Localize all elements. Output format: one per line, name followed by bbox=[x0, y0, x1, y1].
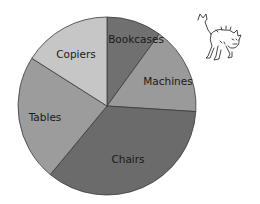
slice-label-bookcases: Bookcases bbox=[108, 33, 164, 45]
slice-label-chairs: Chairs bbox=[111, 153, 144, 165]
slice-label-tables: Tables bbox=[29, 111, 62, 123]
slice-label-copiers: Copiers bbox=[56, 48, 96, 60]
slice-label-machines: Machines bbox=[143, 75, 192, 87]
scared-cat-icon bbox=[194, 8, 248, 64]
